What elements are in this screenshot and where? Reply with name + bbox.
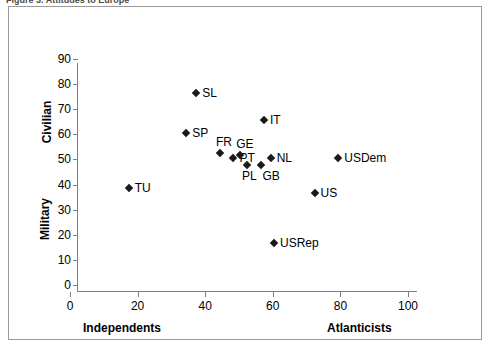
x-tick-label-text: 20 bbox=[118, 299, 158, 313]
y-tick-label-text: 10 bbox=[49, 254, 71, 266]
diamond-marker-icon bbox=[256, 161, 264, 169]
y-tick-90 bbox=[73, 59, 78, 60]
data-point-label-fr: FR bbox=[216, 136, 232, 148]
x-tick-60 bbox=[273, 292, 274, 297]
diamond-marker-icon bbox=[310, 189, 318, 197]
y-axis-label-military: Military bbox=[38, 179, 52, 259]
y-tick-label-text: 0 bbox=[49, 279, 71, 291]
x-axis-label-independents: Independents bbox=[83, 321, 161, 335]
x-tick-40 bbox=[205, 292, 206, 297]
figure-caption-text: Figure 3. Attitudes to Europe bbox=[0, 0, 490, 5]
x-axis-line bbox=[77, 291, 417, 292]
scatter-plot-area: SLITSPFRPTGENLPLGBUSDemUSTUUSRep bbox=[78, 65, 416, 291]
y-tick-label-0: 0 bbox=[45, 279, 71, 291]
figure-frame: Civilian Military 0102030405060708090 02… bbox=[8, 6, 482, 340]
data-point-label-sl: SL bbox=[202, 87, 217, 99]
data-point-label-pl: PL bbox=[242, 170, 257, 182]
diamond-marker-icon bbox=[216, 149, 224, 157]
y-tick-label-10: 10 bbox=[45, 254, 71, 266]
y-tick-label-text: 90 bbox=[49, 53, 71, 65]
diamond-marker-icon bbox=[124, 184, 132, 192]
y-tick-label-60: 60 bbox=[45, 128, 71, 140]
diamond-marker-icon bbox=[192, 88, 200, 96]
y-axis-label-civilian: Civilian bbox=[40, 82, 54, 162]
x-tick-label-text: 60 bbox=[253, 299, 293, 313]
y-tick-label-70: 70 bbox=[45, 103, 71, 115]
x-tick-20 bbox=[138, 292, 139, 297]
data-point-label-sp: SP bbox=[192, 127, 208, 139]
y-tick-label-80: 80 bbox=[45, 78, 71, 90]
data-point-label-usdem: USDem bbox=[344, 152, 386, 164]
data-point-label-it: IT bbox=[270, 114, 281, 126]
y-tick-label-text: 80 bbox=[49, 78, 71, 90]
diamond-marker-icon bbox=[334, 154, 342, 162]
y-tick-label-text: 50 bbox=[49, 153, 71, 165]
x-tick-label-text: 80 bbox=[320, 299, 360, 313]
x-tick-100 bbox=[408, 292, 409, 297]
y-tick-label-text: 60 bbox=[49, 128, 71, 140]
data-point-label-ge: GE bbox=[236, 138, 253, 150]
data-point-label-gb: GB bbox=[263, 170, 280, 182]
y-tick-label-50: 50 bbox=[45, 153, 71, 165]
diamond-marker-icon bbox=[270, 239, 278, 247]
x-tick-label-100: 100 bbox=[388, 299, 428, 313]
y-tick-label-30: 30 bbox=[45, 204, 71, 216]
x-tick-label-text: 0 bbox=[50, 299, 90, 313]
y-tick-label-text: 70 bbox=[49, 103, 71, 115]
data-point-label-tu: TU bbox=[135, 182, 151, 194]
y-tick-label-40: 40 bbox=[45, 179, 71, 191]
data-point-label-us: US bbox=[321, 187, 338, 199]
y-tick-label-20: 20 bbox=[45, 229, 71, 241]
x-tick-label-60: 60 bbox=[253, 299, 293, 313]
y-tick-label-text: 40 bbox=[49, 179, 71, 191]
x-tick-0 bbox=[70, 292, 71, 297]
x-tick-label-40: 40 bbox=[185, 299, 225, 313]
y-tick-label-text: 30 bbox=[49, 204, 71, 216]
data-point-label-nl: NL bbox=[277, 152, 292, 164]
x-tick-label-80: 80 bbox=[320, 299, 360, 313]
x-tick-label-0: 0 bbox=[50, 299, 90, 313]
data-point-label-usrep: USRep bbox=[280, 237, 319, 249]
x-tick-label-20: 20 bbox=[118, 299, 158, 313]
diamond-marker-icon bbox=[266, 154, 274, 162]
y-tick-label-text: 20 bbox=[49, 229, 71, 241]
x-tick-label-text: 40 bbox=[185, 299, 225, 313]
diamond-marker-icon bbox=[260, 116, 268, 124]
figure-caption-strip: Figure 3. Attitudes to Europe bbox=[0, 0, 490, 5]
x-tick-label-text: 100 bbox=[388, 299, 428, 313]
y-tick-label-90: 90 bbox=[45, 53, 71, 65]
diamond-marker-icon bbox=[182, 129, 190, 137]
x-tick-80 bbox=[340, 292, 341, 297]
x-axis-label-atlanticists: Atlanticists bbox=[327, 321, 392, 335]
